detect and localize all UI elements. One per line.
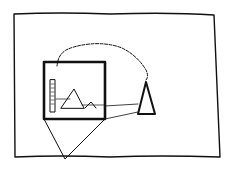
cone [44, 119, 105, 159]
mountain-large [61, 89, 84, 108]
triangle-stand [138, 82, 155, 114]
sketch-drawing [0, 0, 236, 172]
sketch-canvas [0, 0, 236, 172]
